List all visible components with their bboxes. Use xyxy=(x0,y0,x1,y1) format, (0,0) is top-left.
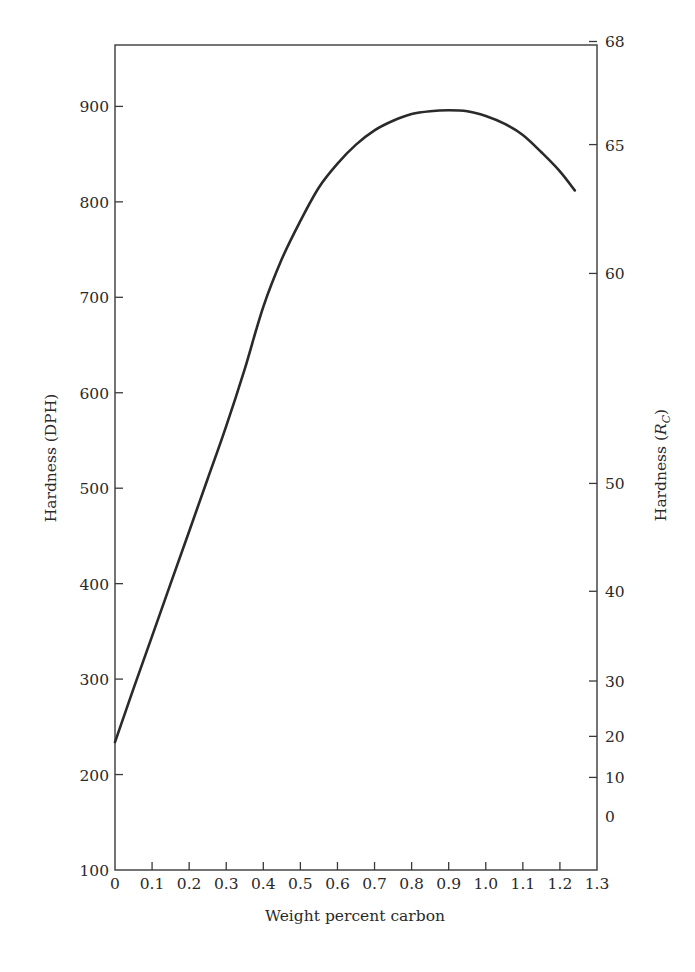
plot-border xyxy=(115,45,597,870)
x-axis-ticks: 00.10.20.30.40.50.60.70.80.91.01.11.21.3 xyxy=(110,862,609,893)
y-right-tick-label: 0 xyxy=(605,808,615,826)
y-axis-right-ticks: 68656050403020100 xyxy=(589,33,625,825)
y-right-title-italic: R xyxy=(652,423,670,436)
y-tick-label: 400 xyxy=(79,576,109,594)
hardness-curve xyxy=(115,110,575,742)
y-tick-label: 900 xyxy=(79,98,109,116)
y-axis-left-ticks: 100200300400500600700800900 xyxy=(79,98,123,880)
x-tick-label: 0.4 xyxy=(251,875,276,893)
y-right-title-main: Hardness ( xyxy=(652,435,670,521)
y-tick-label: 600 xyxy=(79,385,109,403)
y-right-tick-label: 68 xyxy=(605,33,625,51)
x-tick-label: 0 xyxy=(110,875,120,893)
y-right-tick-label: 40 xyxy=(605,583,625,601)
y-right-tick-label: 60 xyxy=(605,265,625,283)
x-tick-label: 1.2 xyxy=(548,875,573,893)
x-tick-label: 0.3 xyxy=(214,875,239,893)
y-axis-right-title: Hardness (RC) xyxy=(652,409,673,521)
x-tick-label: 0.7 xyxy=(362,875,387,893)
y-right-title-close: ) xyxy=(652,409,670,415)
plot-frame xyxy=(115,45,597,870)
y-right-tick-label: 20 xyxy=(605,728,625,746)
x-axis-title: Weight percent carbon xyxy=(265,907,445,925)
y-right-tick-label: 65 xyxy=(605,137,625,155)
y-right-tick-label: 30 xyxy=(605,673,625,691)
y-right-tick-label: 50 xyxy=(605,475,625,493)
x-tick-label: 1.1 xyxy=(511,875,536,893)
y-tick-label: 700 xyxy=(79,289,109,307)
y-tick-label: 100 xyxy=(79,862,109,880)
x-tick-label: 0.2 xyxy=(177,875,202,893)
x-tick-label: 0.9 xyxy=(436,875,461,893)
x-tick-label: 1.0 xyxy=(473,875,498,893)
x-tick-label: 0.6 xyxy=(325,875,350,893)
x-tick-label: 0.1 xyxy=(140,875,165,893)
y-right-tick-label: 10 xyxy=(605,769,625,787)
x-tick-label: 0.8 xyxy=(399,875,424,893)
y-tick-label: 200 xyxy=(79,767,109,785)
hardness-chart: 00.10.20.30.40.50.60.70.80.91.01.11.21.3… xyxy=(0,0,695,972)
y-axis-left-title: Hardness (DPH) xyxy=(42,394,60,523)
x-tick-label: 0.5 xyxy=(288,875,313,893)
x-tick-label: 1.3 xyxy=(585,875,610,893)
y-tick-label: 800 xyxy=(79,194,109,212)
y-tick-label: 500 xyxy=(79,480,109,498)
y-tick-label: 300 xyxy=(79,671,109,689)
